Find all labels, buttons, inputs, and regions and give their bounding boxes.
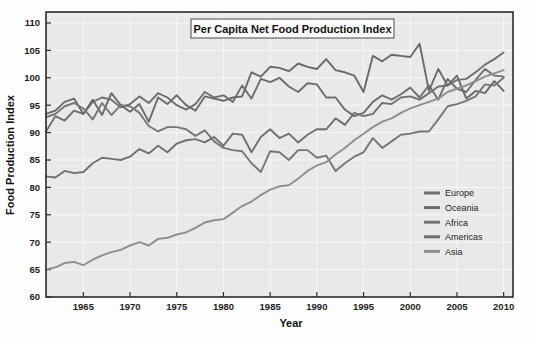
y-tick-label: 100 bbox=[24, 72, 40, 83]
x-axis-title: Year bbox=[279, 317, 303, 329]
legend-label-asia: Asia bbox=[445, 247, 463, 257]
x-tick-label: 1975 bbox=[166, 301, 188, 312]
y-tick-label: 60 bbox=[29, 291, 40, 302]
x-tick-label: 1995 bbox=[353, 301, 375, 312]
y-tick-label: 90 bbox=[29, 127, 40, 138]
y-tick-label: 110 bbox=[25, 17, 40, 28]
x-tick-label: 1985 bbox=[260, 301, 282, 312]
x-tick-label: 1990 bbox=[306, 301, 327, 312]
y-tick-label: 80 bbox=[29, 182, 40, 193]
plot-area-background bbox=[46, 12, 513, 297]
chart-title-label: Per Capita Net Food Production Index bbox=[193, 23, 392, 35]
line-chart: 6065707580859095100105110 19651970197519… bbox=[0, 0, 536, 338]
x-tick-label: 1970 bbox=[119, 301, 140, 312]
chart-container: 6065707580859095100105110 19651970197519… bbox=[0, 0, 536, 338]
chart-title: Per Capita Net Food Production Index bbox=[191, 19, 394, 38]
y-tick-label: 70 bbox=[29, 237, 40, 248]
legend-label-europe: Europe bbox=[445, 188, 474, 198]
x-tick-label: 2010 bbox=[493, 301, 514, 312]
x-tick-label: 1965 bbox=[73, 301, 95, 312]
legend-label-oceania: Oceania bbox=[445, 203, 479, 213]
y-axis-title: Food Production Index bbox=[4, 94, 16, 215]
y-tick-label: 95 bbox=[29, 100, 40, 111]
x-tick-label: 1980 bbox=[213, 301, 234, 312]
x-tick-label: 2005 bbox=[446, 301, 468, 312]
y-tick-label: 75 bbox=[29, 209, 40, 220]
x-tick-label: 2000 bbox=[400, 301, 421, 312]
legend-label-africa: Africa bbox=[445, 218, 468, 228]
legend-label-americas: Americas bbox=[445, 232, 483, 242]
y-tick-label: 65 bbox=[29, 264, 40, 275]
y-tick-label: 105 bbox=[24, 45, 41, 56]
y-tick-label: 85 bbox=[29, 154, 40, 165]
